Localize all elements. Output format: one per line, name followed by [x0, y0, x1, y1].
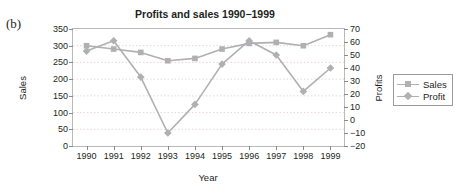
legend-item-profit[interactable]: Profit	[397, 90, 447, 102]
y2-axis-tick-label: −10	[350, 128, 365, 138]
x-axis-tick-label: 1993	[158, 151, 178, 161]
data-point	[138, 50, 144, 56]
figure: (b) Profits and sales 1990−1999 05010015…	[0, 0, 460, 193]
y2-axis-tick	[344, 42, 348, 43]
data-point	[111, 46, 117, 52]
y2-axis-tick	[344, 81, 348, 82]
y-axis-tick-label: 50	[58, 124, 68, 134]
legend: SalesProfit	[393, 74, 453, 106]
x-axis-tick-label: 1990	[77, 151, 97, 161]
y-axis-tick	[69, 29, 73, 30]
y-axis-tick-label: 150	[53, 91, 68, 101]
x-axis-tick-label: 1996	[239, 151, 259, 161]
x-axis-tick-label: 1991	[104, 151, 124, 161]
y2-axis-tick	[344, 120, 348, 121]
data-point	[192, 56, 198, 62]
x-axis-tick-label: 1997	[266, 151, 286, 161]
y2-axis-tick	[344, 107, 348, 108]
y-axis-tick-label: 200	[53, 74, 68, 84]
data-point	[219, 46, 225, 52]
x-axis-tick	[330, 146, 331, 150]
plot-area: 050100150200250300350−20−100102030405060…	[72, 28, 345, 147]
y2-axis-tick-label: 30	[350, 76, 360, 86]
y2-axis-tick-label: 60	[350, 37, 360, 47]
y-axis-tick	[69, 113, 73, 114]
y2-axis-tick-label: 10	[350, 102, 360, 112]
x-axis-tick	[222, 146, 223, 150]
x-axis-tick-label: 1994	[185, 151, 205, 161]
y2-axis-tick-label: 70	[350, 24, 360, 34]
y-axis-tick	[69, 46, 73, 47]
legend-label: Sales	[423, 79, 447, 90]
y2-axis-tick-label: 20	[350, 89, 360, 99]
x-axis-tick-label: 1998	[293, 151, 313, 161]
series-sales	[84, 32, 334, 64]
x-axis-tick	[168, 146, 169, 150]
x-axis-title: Year	[198, 172, 217, 183]
y2-axis-tick-label: −20	[350, 141, 365, 151]
diamond-marker	[397, 91, 419, 101]
y2-axis-tick	[344, 146, 348, 147]
y2-axis-tick	[344, 94, 348, 95]
y-axis-title: Sales	[17, 76, 28, 100]
y2-axis-tick	[344, 55, 348, 56]
series-profit	[83, 37, 335, 137]
legend-label: Profit	[423, 91, 445, 102]
x-axis-tick	[276, 146, 277, 150]
square-marker	[397, 79, 419, 89]
y-axis-tick	[69, 146, 73, 147]
x-axis-tick-label: 1992	[131, 151, 151, 161]
data-point	[328, 32, 334, 38]
y2-axis-tick	[344, 29, 348, 30]
y2-axis-tick-label: 50	[350, 50, 360, 60]
y-axis-tick-label: 350	[53, 24, 68, 34]
x-axis-tick-label: 1999	[320, 151, 340, 161]
y-axis-tick-label: 250	[53, 57, 68, 67]
y-axis-tick	[69, 62, 73, 63]
x-axis-tick	[195, 146, 196, 150]
data-series-layer	[73, 29, 344, 146]
x-axis-tick	[114, 146, 115, 150]
data-point	[165, 58, 171, 64]
x-axis-tick	[87, 146, 88, 150]
x-axis-tick	[141, 146, 142, 150]
x-axis-tick-label: 1995	[212, 151, 232, 161]
y2-axis-tick-label: 40	[350, 63, 360, 73]
y2-axis-tick-label: 0	[350, 115, 355, 125]
data-point	[301, 43, 307, 49]
y-axis-tick-label: 300	[53, 41, 68, 51]
y2-axis-tick	[344, 68, 348, 69]
data-point	[273, 40, 279, 46]
y2-axis-title: Profits	[373, 75, 384, 102]
y-axis-tick	[69, 79, 73, 80]
y2-axis-tick	[344, 133, 348, 134]
y-axis-tick-label: 100	[53, 108, 68, 118]
x-axis-tick	[303, 146, 304, 150]
y-axis-tick	[69, 96, 73, 97]
panel-label: (b)	[6, 16, 21, 32]
chart-title: Profits and sales 1990−1999	[60, 8, 350, 20]
legend-item-sales[interactable]: Sales	[397, 78, 447, 90]
x-axis-tick	[249, 146, 250, 150]
y-axis-tick-label: 0	[63, 141, 68, 151]
y-axis-tick	[69, 129, 73, 130]
